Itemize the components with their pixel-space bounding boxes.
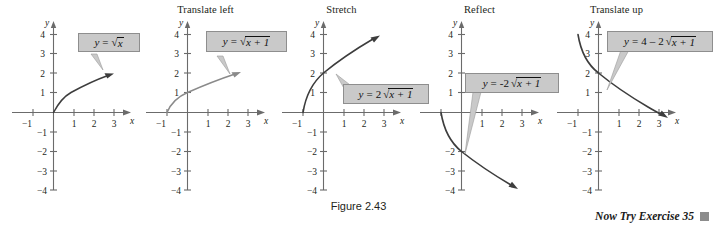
equation-radicand-base: x <box>117 37 124 49</box>
svg-text:2: 2 <box>448 69 453 79</box>
svg-text:3: 3 <box>382 119 387 129</box>
svg-text:1: 1 <box>72 119 77 129</box>
equation-coefficient-stretch: 2 <box>376 89 382 100</box>
equation-equals-translate-left: = <box>231 36 237 47</box>
y-axis-arrow <box>596 21 601 28</box>
x-axis-label: x <box>399 116 405 126</box>
svg-text:3: 3 <box>112 119 117 129</box>
x-axis-arrow <box>123 110 131 116</box>
svg-text:3: 3 <box>40 49 45 59</box>
plot-reflect: y x 1 2 3 4 3 2 1 −2 −3 −4 <box>408 14 551 200</box>
svg-text:−2: −2 <box>445 147 455 157</box>
svg-text:4: 4 <box>448 30 453 40</box>
equation-text-reflect: y <box>483 78 488 89</box>
equation-coefficient-translate-up: 2 <box>658 36 664 47</box>
svg-text:−2: −2 <box>582 147 592 157</box>
y-axis-label: y <box>178 18 184 28</box>
svg-text:3: 3 <box>246 119 251 129</box>
equation-label-translate-up: y = 4 – 2 √x + 1 <box>607 31 713 52</box>
x-axis-arrow <box>393 110 401 116</box>
svg-text:−1: −1 <box>22 119 32 129</box>
equation-equals-reflect: = <box>491 78 497 89</box>
panel-translate-up: Translate up <box>545 0 717 200</box>
curve-arrow-stretch <box>371 36 381 43</box>
svg-text:−1: −1 <box>156 119 166 129</box>
svg-text:−1: −1 <box>567 119 577 129</box>
x-axis-arrow <box>531 110 539 116</box>
equation-text-translate-left: y <box>223 36 228 47</box>
now-try-exercise: Now Try Exercise 35 <box>595 210 709 222</box>
svg-text:−1: −1 <box>307 128 317 138</box>
eqbox-pointer-base <box>91 54 103 70</box>
svg-text:2: 2 <box>226 119 231 129</box>
svg-text:1: 1 <box>206 119 211 129</box>
equation-radicand-translate-left: x + 1 <box>245 36 270 48</box>
square-marker-icon <box>700 212 709 221</box>
plot-stretch: y x −1 1 2 3 4 3 2 1 −1 −2 −3 −4 <box>270 14 413 200</box>
svg-text:−4: −4 <box>171 186 181 196</box>
equation-constant-translate-up: 4 <box>641 36 647 47</box>
svg-text:4: 4 <box>585 30 590 40</box>
x-axis-label: x <box>537 116 543 126</box>
svg-text:−1: −1 <box>292 119 302 129</box>
svg-text:4: 4 <box>310 30 315 40</box>
equation-text-stretch: y <box>359 89 364 100</box>
svg-text:−2: −2 <box>37 147 47 157</box>
equation-op-translate-up: – <box>650 36 656 47</box>
equation-equals-stretch: = <box>366 89 372 100</box>
svg-text:3: 3 <box>174 49 179 59</box>
svg-text:−1: −1 <box>37 128 47 138</box>
svg-text:−4: −4 <box>37 186 47 196</box>
curve-arrow-reflect <box>509 182 519 189</box>
curve-arrow-base <box>105 73 115 78</box>
y-axis-arrow <box>321 21 326 28</box>
svg-text:4: 4 <box>40 30 45 40</box>
curve-base <box>54 76 109 113</box>
y-axis-label: y <box>589 18 595 28</box>
svg-text:−2: −2 <box>307 147 317 157</box>
eqbox-pointer-translate-left <box>217 56 230 74</box>
svg-text:2: 2 <box>310 69 315 79</box>
figure-2-43: y x −1 1 2 3 4 3 2 1 −1 −2 −3 −4 <box>0 0 717 234</box>
eqbox-pointer-translate-up <box>607 50 629 90</box>
svg-text:−4: −4 <box>307 186 317 196</box>
equation-text-base: y <box>94 37 99 48</box>
svg-text:1: 1 <box>585 88 590 98</box>
svg-text:1: 1 <box>342 119 347 129</box>
equation-radicand-translate-up: x + 1 <box>671 36 696 48</box>
svg-text:−2: −2 <box>171 147 181 157</box>
equation-equals-translate-up: = <box>632 36 638 47</box>
svg-text:1: 1 <box>40 88 45 98</box>
y-axis-label: y <box>44 18 50 28</box>
y-axis-arrow <box>185 21 190 28</box>
svg-text:−3: −3 <box>37 167 47 177</box>
svg-text:2: 2 <box>637 119 642 129</box>
svg-text:−4: −4 <box>582 186 592 196</box>
svg-text:2: 2 <box>362 119 367 129</box>
y-axis-label: y <box>452 18 458 28</box>
svg-text:3: 3 <box>310 49 315 59</box>
panel-translate-left: Translate left <box>134 0 277 200</box>
equation-label-base: y = √x <box>78 33 140 52</box>
svg-text:1: 1 <box>480 119 485 129</box>
svg-text:3: 3 <box>448 49 453 59</box>
svg-text:−1: −1 <box>171 128 181 138</box>
svg-text:2: 2 <box>174 69 179 79</box>
y-axis-label: y <box>314 18 320 28</box>
equation-text-translate-up: y <box>624 36 629 47</box>
svg-text:3: 3 <box>520 119 525 129</box>
panel-stretch: Stretch <box>270 0 413 200</box>
y-axis-arrow <box>459 21 464 28</box>
svg-text:2: 2 <box>40 69 45 79</box>
svg-text:−3: −3 <box>445 167 455 177</box>
now-try-text: Now Try Exercise 35 <box>595 210 694 222</box>
equation-equals-base: = <box>102 37 108 48</box>
panel-reflect: Reflect <box>408 0 551 200</box>
svg-text:−3: −3 <box>307 167 317 177</box>
svg-text:1: 1 <box>174 88 179 98</box>
svg-text:2: 2 <box>500 119 505 129</box>
svg-text:1: 1 <box>448 88 453 98</box>
svg-text:1: 1 <box>617 119 622 129</box>
svg-text:3: 3 <box>657 119 662 129</box>
svg-text:2: 2 <box>585 69 590 79</box>
